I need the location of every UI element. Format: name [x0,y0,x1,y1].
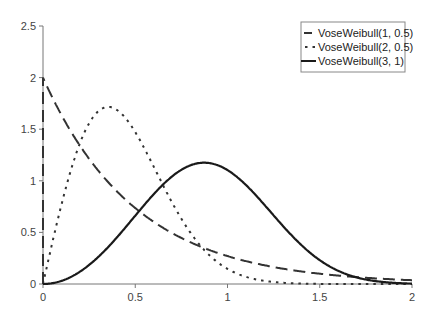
series-weibull-3-1 [43,163,412,284]
weibull-pdf-chart: 00.511.522.5 00.511.52 VoseWeibull(1, 0.… [0,0,433,315]
y-tick-label: 0.5 [21,226,36,238]
y-tick-label: 2 [30,72,36,84]
y-tick-label: 1 [30,175,36,187]
x-tick-label: 0 [40,291,46,303]
x-tick-label: 0.5 [128,291,143,303]
legend-label-1: VoseWeibull(2, 0.5) [318,41,413,53]
legend-label-2: VoseWeibull(3, 1) [318,55,404,67]
x-ticks: 00.511.52 [40,284,415,303]
y-ticks: 00.511.522.5 [21,20,43,290]
y-tick-label: 2.5 [21,20,36,32]
series-weibull-1-0.5 [43,78,412,284]
y-tick-label: 1.5 [21,123,36,135]
legend: VoseWeibull(1, 0.5) VoseWeibull(2, 0.5) … [301,22,413,72]
y-tick-label: 0 [30,278,36,290]
x-tick-label: 1 [224,291,230,303]
series-layer [43,78,412,284]
x-tick-label: 2 [409,291,415,303]
x-tick-label: 1.5 [312,291,327,303]
legend-label-0: VoseWeibull(1, 0.5) [318,27,413,39]
